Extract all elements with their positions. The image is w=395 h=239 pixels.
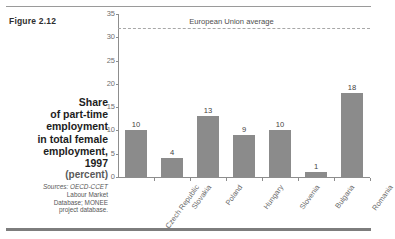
figure-title-line-4: in total female xyxy=(4,133,108,145)
bar-value-label: 13 xyxy=(204,106,212,115)
y-tick-label: 35 xyxy=(95,10,115,18)
y-tick-mark xyxy=(116,84,119,85)
y-tick-mark xyxy=(116,177,119,178)
y-tick-label: 0 xyxy=(95,173,115,181)
bar-hungary[interactable] xyxy=(233,135,255,177)
figure-title-line-2: of part-time xyxy=(4,108,108,120)
sources-line-1: Sources: OECD-CCET xyxy=(4,183,108,191)
bar-value-label: 10 xyxy=(276,120,284,129)
x-tick-mark xyxy=(262,178,263,181)
x-tick-mark xyxy=(190,178,191,181)
x-axis-label-hungary: Hungary xyxy=(262,183,286,211)
figure-title-line-3: employment xyxy=(4,120,108,132)
y-tick-mark xyxy=(116,37,119,38)
y-tick-mark xyxy=(116,14,119,15)
bar-value-label: 18 xyxy=(348,83,356,92)
y-tick-mark xyxy=(116,154,119,155)
eu-average-line xyxy=(118,28,370,29)
figure-number-label: Figure 2.12 xyxy=(9,16,56,26)
x-axis-label-poland: Poland xyxy=(223,183,244,207)
y-tick-mark xyxy=(116,61,119,62)
bar-czech-republic[interactable] xyxy=(125,130,147,177)
bottom-divider xyxy=(6,228,371,231)
top-divider xyxy=(6,6,371,7)
y-tick-label: 25 xyxy=(95,57,115,65)
x-tick-mark xyxy=(334,178,335,181)
x-axis-line xyxy=(118,177,370,178)
x-tick-mark xyxy=(298,178,299,181)
x-axis-label-bulgaria: Bulgaria xyxy=(333,183,356,210)
y-tick-mark xyxy=(116,107,119,108)
figure-title-line-6: 1997 xyxy=(4,157,108,169)
y-tick-label: 5 xyxy=(95,150,115,158)
bar-value-label: 9 xyxy=(242,125,246,134)
figure-unit-label: (percent) xyxy=(4,169,108,181)
y-tick-mark xyxy=(116,130,119,131)
bar-value-label: 4 xyxy=(170,148,174,157)
y-tick-label: 30 xyxy=(95,33,115,41)
figure-caption-block: Share of part-time employment in total f… xyxy=(4,96,108,214)
figure-title-line-1: Share xyxy=(4,96,108,108)
y-tick-label: 15 xyxy=(95,103,115,111)
x-axis-label-slovenia: Slovenia xyxy=(298,183,322,211)
x-axis-label-romania: Romania xyxy=(370,183,395,212)
bar-chart-plot: 05101520253035 European Union average 10… xyxy=(110,14,372,178)
figure-sources: Sources: OECD-CCET Labour Market Databas… xyxy=(4,183,108,213)
sources-line-4: project database. xyxy=(4,206,108,214)
figure-title: Share of part-time employment in total f… xyxy=(4,96,108,181)
bar-slovenia[interactable] xyxy=(269,130,291,177)
bar-value-label: 10 xyxy=(132,120,140,129)
bar-bulgaria[interactable] xyxy=(305,172,327,177)
sources-line-2: Labour Market xyxy=(4,191,108,199)
sources-line-3: Database; MONEE xyxy=(4,199,108,207)
bar-slovakia[interactable] xyxy=(161,158,183,177)
eu-average-label: European Union average xyxy=(189,17,273,26)
bar-romania[interactable] xyxy=(341,93,363,177)
figure-title-line-5: employment, xyxy=(4,145,108,157)
y-tick-label: 20 xyxy=(95,80,115,88)
bar-value-label: 1 xyxy=(314,162,318,171)
bar-poland[interactable] xyxy=(197,116,219,177)
x-tick-mark xyxy=(370,178,371,181)
x-tick-mark xyxy=(226,178,227,181)
y-tick-label: 10 xyxy=(95,126,115,134)
x-tick-mark xyxy=(154,178,155,181)
